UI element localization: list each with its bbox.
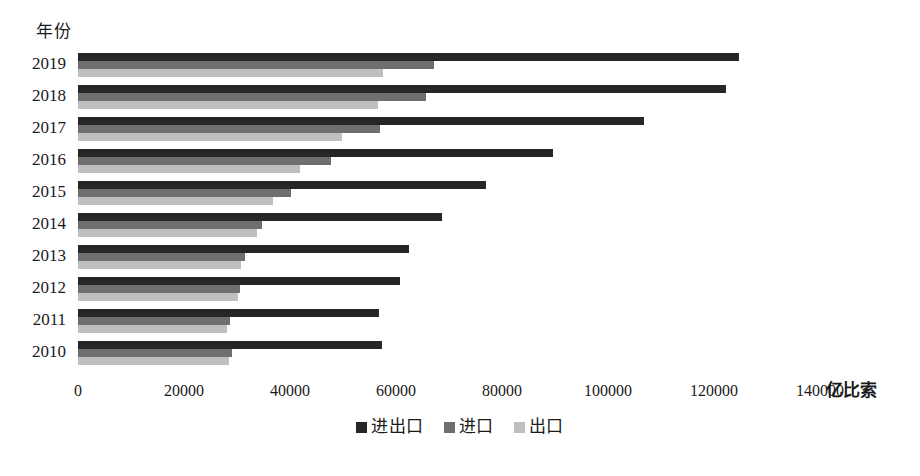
bar-进出口-2018 bbox=[78, 85, 726, 93]
y-tick-label-2012: 2012 bbox=[32, 278, 66, 298]
bar-group bbox=[78, 309, 820, 341]
bar-出口-2014 bbox=[78, 229, 257, 237]
bar-进出口-2011 bbox=[78, 309, 379, 317]
bar-group bbox=[78, 117, 820, 149]
bar-进出口-2015 bbox=[78, 181, 486, 189]
y-tick-label-2014: 2014 bbox=[32, 214, 66, 234]
bar-进口-2014 bbox=[78, 221, 262, 229]
y-tick-label-2010: 2010 bbox=[32, 342, 66, 362]
bar-进出口-2017 bbox=[78, 117, 644, 125]
horizontal-bar-chart: 年份 2019201820172016201520142013201220112… bbox=[0, 0, 920, 476]
bar-group bbox=[78, 181, 820, 213]
bar-出口-2017 bbox=[78, 133, 342, 141]
bar-出口-2015 bbox=[78, 197, 273, 205]
bar-进口-2018 bbox=[78, 93, 426, 101]
bar-group bbox=[78, 213, 820, 245]
x-tick-label-120000: 120000 bbox=[690, 380, 738, 402]
chart-legend: 进出口进口出口 bbox=[0, 418, 920, 436]
bar-group bbox=[78, 85, 820, 117]
bar-出口-2010 bbox=[78, 357, 229, 365]
legend-item-出口[interactable]: 出口 bbox=[514, 418, 564, 436]
legend-label: 进口 bbox=[459, 418, 494, 436]
y-tick-label-2011: 2011 bbox=[33, 310, 66, 330]
bar-出口-2016 bbox=[78, 165, 300, 173]
bar-进口-2019 bbox=[78, 61, 434, 69]
bar-出口-2011 bbox=[78, 325, 227, 333]
bar-进出口-2016 bbox=[78, 149, 553, 157]
legend-item-进出口[interactable]: 进出口 bbox=[356, 418, 424, 436]
bar-进口-2011 bbox=[78, 317, 230, 325]
legend-swatch-icon bbox=[444, 422, 455, 433]
bar-group bbox=[78, 245, 820, 277]
x-tick-label-20000: 20000 bbox=[164, 380, 204, 402]
bar-进出口-2012 bbox=[78, 277, 400, 285]
y-tick-label-2018: 2018 bbox=[32, 86, 66, 106]
bar-进出口-2013 bbox=[78, 245, 409, 253]
x-axis-tick-labels: 亿比索 020000400006000080000100000120000140… bbox=[0, 380, 920, 402]
bar-group bbox=[78, 277, 820, 309]
bar-进口-2010 bbox=[78, 349, 232, 357]
y-tick-label-2016: 2016 bbox=[32, 150, 66, 170]
legend-item-进口[interactable]: 进口 bbox=[444, 418, 494, 436]
bar-rows bbox=[78, 52, 820, 372]
y-axis-tick-labels: 2019201820172016201520142013201220112010 bbox=[0, 52, 72, 372]
bar-出口-2012 bbox=[78, 293, 238, 301]
y-tick-label-2019: 2019 bbox=[32, 54, 66, 74]
bar-进口-2016 bbox=[78, 157, 331, 165]
bar-进出口-2019 bbox=[78, 53, 739, 61]
bar-进口-2017 bbox=[78, 125, 380, 133]
bar-进口-2015 bbox=[78, 189, 291, 197]
legend-label: 出口 bbox=[529, 418, 564, 436]
y-tick-label-2017: 2017 bbox=[32, 118, 66, 138]
legend-label: 进出口 bbox=[371, 418, 424, 436]
bar-group bbox=[78, 149, 820, 181]
x-tick-label-100000: 100000 bbox=[584, 380, 632, 402]
bar-group bbox=[78, 53, 820, 85]
x-tick-label-140000: 140000 bbox=[796, 380, 844, 402]
x-tick-label-0: 0 bbox=[74, 380, 82, 402]
bar-出口-2013 bbox=[78, 261, 241, 269]
bar-进口-2012 bbox=[78, 285, 240, 293]
bar-出口-2019 bbox=[78, 69, 383, 77]
x-tick-label-40000: 40000 bbox=[270, 380, 310, 402]
x-tick-label-80000: 80000 bbox=[482, 380, 522, 402]
legend-swatch-icon bbox=[356, 422, 367, 433]
y-axis-title: 年份 bbox=[36, 22, 71, 42]
legend-swatch-icon bbox=[514, 422, 525, 433]
bar-进出口-2014 bbox=[78, 213, 442, 221]
bar-进出口-2010 bbox=[78, 341, 382, 349]
plot-area bbox=[78, 52, 820, 372]
y-tick-label-2015: 2015 bbox=[32, 182, 66, 202]
bar-出口-2018 bbox=[78, 101, 378, 109]
bar-进口-2013 bbox=[78, 253, 245, 261]
y-tick-label-2013: 2013 bbox=[32, 246, 66, 266]
x-tick-label-60000: 60000 bbox=[376, 380, 416, 402]
bar-group bbox=[78, 341, 820, 373]
